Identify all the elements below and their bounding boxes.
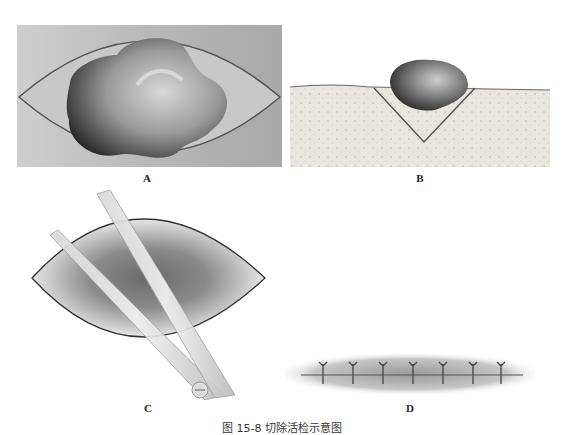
panel-d xyxy=(283,350,538,398)
panel-b-label: B xyxy=(410,172,430,184)
scissors-excision-illustration xyxy=(25,190,275,400)
wedge-excision-illustration xyxy=(290,55,550,167)
panel-a-label: A xyxy=(137,172,157,184)
panel-c-label: C xyxy=(138,402,158,414)
sutured-incision-illustration xyxy=(283,350,538,398)
panel-b xyxy=(290,55,550,167)
figure-caption: 图 15-8 切除活检示意图 xyxy=(0,419,564,435)
panel-c xyxy=(25,190,275,400)
elliptical-excision-illustration xyxy=(17,25,282,167)
panel-a xyxy=(17,25,282,167)
panel-d-label: D xyxy=(400,402,420,414)
